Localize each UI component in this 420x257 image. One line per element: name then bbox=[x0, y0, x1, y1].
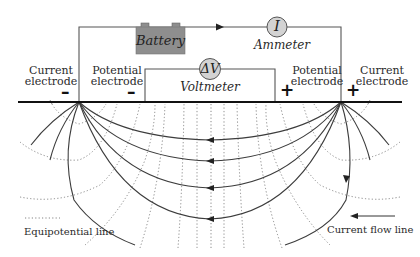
right-potential-electrode-label: Potential electrode bbox=[286, 65, 348, 87]
voltmeter-label: Voltmeter bbox=[175, 82, 245, 93]
right-current-polarity: + bbox=[346, 82, 360, 99]
ammeter-label: Ammeter bbox=[247, 40, 317, 51]
voltmeter-symbol: ΔV bbox=[198, 62, 222, 76]
resistivity-diagram: Battery I Ammeter ΔV Voltmeter Current e… bbox=[0, 0, 420, 257]
left-current-electrode-label: Current electrode bbox=[20, 65, 82, 87]
battery-label: Battery bbox=[136, 35, 185, 46]
circuit-direction-arrow bbox=[216, 24, 224, 31]
left-current-polarity: – bbox=[61, 84, 70, 101]
left-potential-polarity: – bbox=[127, 84, 136, 101]
diagram-canvas bbox=[0, 0, 420, 257]
ammeter-symbol: I bbox=[267, 19, 287, 34]
left-potential-electrode-label: Potential electrode bbox=[86, 65, 148, 87]
current-flow-legend-label: Current flow line bbox=[327, 224, 413, 235]
right-potential-polarity: + bbox=[280, 82, 294, 99]
equipotential-legend-label: Equipotential line bbox=[24, 226, 114, 237]
flow-arrows bbox=[206, 137, 350, 222]
right-current-electrode-label: Current electrode bbox=[351, 65, 413, 87]
current-flow-legend-sample bbox=[350, 213, 395, 219]
